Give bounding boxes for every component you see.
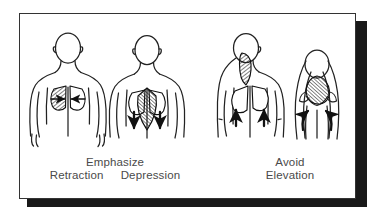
- caption-avoid: Avoid Elevation: [225, 156, 355, 182]
- caption-emphasize-heading: Emphasize: [20, 156, 210, 168]
- caption-depression: Depression: [121, 169, 181, 181]
- caption-avoid-heading: Avoid: [225, 156, 355, 168]
- caption-emphasize: Emphasize RetractionDepression: [20, 156, 210, 182]
- caption-retraction: Retraction: [50, 169, 104, 181]
- illustration-panel: Emphasize RetractionDepression Avoid Ele…: [19, 13, 356, 199]
- caption-emphasize-items: RetractionDepression: [20, 169, 210, 181]
- figure-retraction: [30, 33, 106, 147]
- diagram-stage: Emphasize RetractionDepression Avoid Ele…: [0, 0, 380, 219]
- figure-elevation-overhead: [295, 50, 339, 139]
- figure-depression: [109, 36, 184, 139]
- caption-elevation: Elevation: [225, 169, 355, 181]
- figure-elevation-shrug: [217, 34, 284, 138]
